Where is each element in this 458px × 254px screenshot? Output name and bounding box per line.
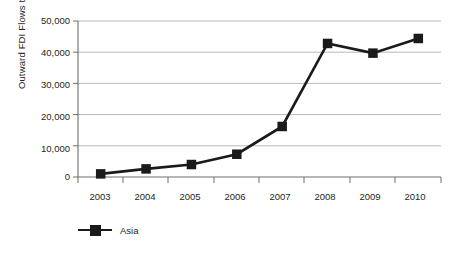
data-point-marker	[232, 149, 242, 159]
data-point-marker	[414, 34, 424, 44]
x-axis-ticks	[78, 177, 441, 183]
data-point-marker	[368, 48, 378, 58]
series-markers-asia	[96, 34, 423, 179]
grid-lines	[78, 21, 441, 146]
data-point-marker	[277, 122, 287, 131]
data-point-marker	[323, 39, 333, 49]
legend: Asia	[78, 222, 138, 238]
chart-figure: Outward FDI Flows to Asia 50,000 40,000 …	[0, 0, 458, 254]
data-point-marker	[96, 169, 106, 179]
data-point-marker	[141, 164, 151, 174]
legend-label-asia: Asia	[120, 225, 138, 236]
plot-area	[0, 0, 458, 254]
legend-swatch-asia	[78, 223, 112, 237]
y-axis-ticks	[73, 21, 78, 177]
square-marker-icon	[90, 225, 101, 236]
data-point-marker	[187, 160, 197, 170]
series-line-asia	[101, 38, 419, 173]
